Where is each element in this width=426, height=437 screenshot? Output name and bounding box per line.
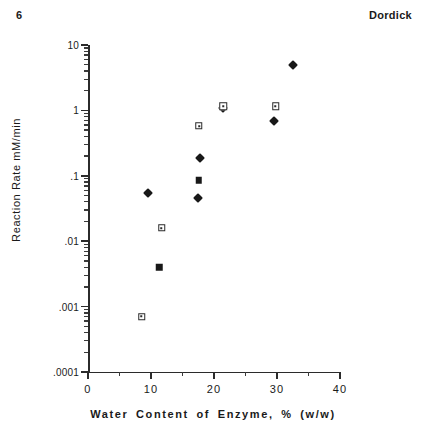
y-tick-label: .001 xyxy=(59,301,79,312)
data-point-filled-diamond xyxy=(143,188,153,198)
y-tick-mark xyxy=(81,240,88,242)
data-point-filled-diamond xyxy=(269,116,279,126)
data-point-open-square xyxy=(220,103,228,111)
data-point-filled-square xyxy=(156,264,163,271)
y-axis-title: Reaction Rate mM/min xyxy=(10,118,32,242)
x-tick-label: 20 xyxy=(207,383,222,395)
x-tick-label: 10 xyxy=(144,383,159,395)
y-tick-label: 1 xyxy=(73,105,79,116)
data-point-open-square xyxy=(195,122,203,130)
y-tick-mark xyxy=(81,44,88,46)
data-point-open-square xyxy=(272,103,280,111)
y-tick-mark xyxy=(81,306,88,308)
x-tick-minor xyxy=(245,372,246,376)
y-tick-label: .01 xyxy=(64,236,79,247)
x-tick-minor xyxy=(182,372,183,376)
x-tick-label: 40 xyxy=(333,383,348,395)
x-axis-ticks: 010203040 xyxy=(88,372,341,402)
x-tick-mark-10 xyxy=(150,372,152,379)
y-tick-label: .1 xyxy=(70,170,79,181)
x-tick-mark-0 xyxy=(87,372,89,379)
data-point-filled-diamond xyxy=(193,194,203,204)
x-tick-label: 0 xyxy=(84,383,91,395)
data-point-filled-diamond xyxy=(288,60,298,70)
x-tick-mark-20 xyxy=(213,372,215,379)
x-tick-label: 30 xyxy=(270,383,285,395)
x-tick-minor xyxy=(119,372,120,376)
x-tick-minor xyxy=(308,372,309,376)
data-point-filled-diamond xyxy=(195,153,205,163)
y-tick-mark xyxy=(81,110,88,112)
x-axis-title: Water Content of Enzyme, % (w/w) xyxy=(0,408,426,420)
y-tick-mark xyxy=(81,175,88,177)
plot-area xyxy=(88,45,340,372)
y-tick-label: .0001 xyxy=(53,367,79,378)
figure-scatter-plot: 101.1.01.001.0001 010203040 Reaction Rat… xyxy=(0,0,426,437)
x-tick-mark-40 xyxy=(339,372,341,379)
y-tick-label: 10 xyxy=(67,40,79,51)
data-point-open-square xyxy=(138,313,146,321)
data-point-filled-square xyxy=(196,177,203,184)
x-tick-mark-30 xyxy=(276,372,278,379)
data-point-open-square xyxy=(158,224,166,232)
